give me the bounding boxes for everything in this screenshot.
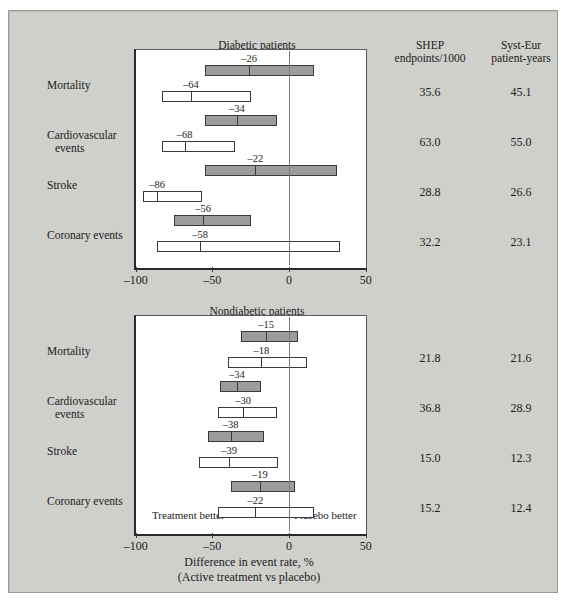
row-label-line2: events (47, 142, 142, 155)
point-estimate-tick (261, 358, 262, 367)
figure-page: SHEP endpoints/1000 Syst-Eur patient-yea… (0, 0, 566, 602)
endpoint-rate-systeur: 45.1 (486, 85, 556, 100)
axis-tick (289, 533, 290, 538)
endpoint-rate-shep: 15.0 (395, 451, 465, 466)
point-estimate-label: –34 (217, 103, 257, 114)
axis-tick-label: 50 (346, 539, 386, 554)
point-estimate-label: –68 (165, 129, 205, 140)
point-estimate-tick (229, 458, 230, 467)
point-estimate-tick (255, 508, 256, 517)
confidence-interval-bar-systeur (228, 357, 308, 368)
point-estimate-label: –15 (246, 319, 286, 330)
row-label: Stroke (47, 445, 142, 458)
axis-tick (212, 533, 213, 538)
confidence-interval-bar-systeur (218, 407, 276, 418)
confidence-interval-bar-shep (208, 431, 265, 442)
point-estimate-tick (243, 408, 244, 417)
point-estimate-tick (237, 382, 238, 391)
axis-caption-block: Difference in event rate, % (Active trea… (99, 555, 399, 585)
confidence-interval-bar-shep (174, 215, 251, 226)
axis-tick (366, 533, 367, 538)
note-treatment-better: Treatment better (152, 509, 225, 521)
row-label: Mortality (47, 79, 142, 92)
axis-tick-label: –100 (116, 539, 156, 554)
point-estimate-label: –22 (235, 495, 275, 506)
row-label: Cardiovascularevents (47, 129, 142, 155)
endpoint-rate-systeur: 21.6 (486, 351, 556, 366)
row-label-line1: Cardiovascular (47, 395, 142, 408)
point-estimate-tick (231, 432, 232, 441)
confidence-interval-bar-systeur (218, 507, 313, 518)
systeur-head-line2: patient-years (475, 52, 566, 65)
row-label: Cardiovascularevents (47, 395, 142, 421)
endpoint-rate-systeur: 12.4 (486, 501, 556, 516)
row-label-line1: Cardiovascular (47, 129, 142, 142)
endpoint-rate-shep: 63.0 (395, 135, 465, 150)
confidence-interval-bar-systeur (199, 457, 279, 468)
figure-frame: SHEP endpoints/1000 Syst-Eur patient-yea… (8, 10, 558, 593)
endpoint-rate-systeur: 23.1 (486, 235, 556, 250)
point-estimate-label: –26 (229, 53, 269, 64)
axis-tick-label: –50 (192, 539, 232, 554)
endpoint-rate-systeur: 55.0 (486, 135, 556, 150)
point-estimate-label: –86 (137, 179, 177, 190)
confidence-interval-bar-shep (231, 481, 295, 492)
endpoint-rate-systeur: 12.3 (486, 451, 556, 466)
point-estimate-label: –38 (211, 419, 251, 430)
axis-tick (136, 533, 137, 538)
point-estimate-tick (203, 216, 204, 225)
endpoint-rate-systeur: 26.6 (486, 185, 556, 200)
point-estimate-label: –58 (180, 229, 220, 240)
point-estimate-tick (255, 166, 256, 175)
point-estimate-label: –39 (209, 445, 249, 456)
axis-tick-label: 0 (269, 539, 309, 554)
axis-tick (289, 267, 290, 272)
row-label-line1: Mortality (47, 79, 142, 92)
point-estimate-label: –64 (171, 79, 211, 90)
endpoint-rate-shep: 15.2 (395, 501, 465, 516)
systeur-head-line1: Syst-Eur (475, 39, 566, 52)
point-estimate-label: –19 (240, 469, 280, 480)
caption-line-2: (Active treatment vs placebo) (99, 570, 399, 585)
point-estimate-label: –22 (235, 153, 275, 164)
endpoint-rate-shep: 32.2 (395, 235, 465, 250)
confidence-interval-bar-shep (220, 381, 261, 392)
endpoint-rate-shep: 36.8 (395, 401, 465, 416)
endpoint-rate-systeur: 28.9 (486, 401, 556, 416)
axis-tick-label: –100 (116, 273, 156, 288)
point-estimate-label: –34 (217, 369, 257, 380)
point-estimate-tick (260, 482, 261, 491)
confidence-interval-bar-shep (205, 115, 277, 126)
point-estimate-tick (200, 242, 201, 251)
axis-tick-label: 0 (269, 273, 309, 288)
axis-tick (212, 267, 213, 272)
endpoint-rate-shep: 21.8 (395, 351, 465, 366)
point-estimate-label: –56 (183, 203, 223, 214)
point-estimate-tick (191, 92, 192, 101)
point-estimate-label: –18 (241, 345, 281, 356)
axis-tick (366, 267, 367, 272)
caption-line-1: Difference in event rate, % (99, 555, 399, 570)
zero-reference-line (289, 51, 290, 265)
confidence-interval-bar-systeur (162, 141, 236, 152)
point-estimate-tick (266, 332, 267, 341)
column-header-systeur: Syst-Eur patient-years (475, 39, 566, 65)
point-estimate-tick (249, 66, 250, 75)
row-label: Coronary events (47, 229, 142, 242)
zero-reference-line (289, 317, 290, 531)
axis-tick-label: 50 (346, 273, 386, 288)
row-label-line1: Coronary events (47, 495, 142, 508)
confidence-interval-bar-shep (205, 165, 337, 176)
confidence-interval-bar-systeur (162, 91, 251, 102)
shep-head-line2: endpoints/1000 (384, 52, 476, 65)
endpoint-rate-shep: 35.6 (395, 85, 465, 100)
point-estimate-label: –30 (223, 395, 263, 406)
row-label-line2: events (47, 408, 142, 421)
point-estimate-tick (157, 192, 158, 201)
column-header-shep: SHEP endpoints/1000 (384, 39, 476, 65)
row-label: Stroke (47, 179, 142, 192)
confidence-interval-bar-systeur (157, 241, 339, 252)
point-estimate-tick (185, 142, 186, 151)
shep-head-line1: SHEP (384, 39, 476, 52)
row-label-line1: Mortality (47, 345, 142, 358)
